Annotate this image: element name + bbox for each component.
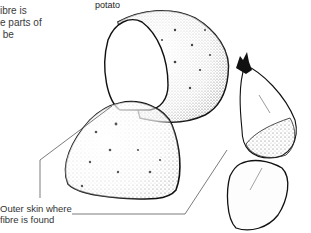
potato-half	[65, 102, 179, 199]
wheat-grain-side	[236, 52, 296, 158]
wheat-grain-front	[228, 161, 288, 230]
fibre-illustration	[0, 0, 311, 233]
